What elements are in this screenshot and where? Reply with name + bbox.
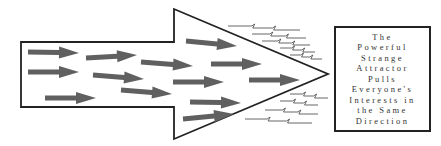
caption-line: Direction xyxy=(356,116,410,127)
caption-line: Attractor xyxy=(356,63,408,74)
caption-line: Everyone's xyxy=(352,84,413,95)
zigzag-line xyxy=(252,32,306,38)
caption-line: Pulls xyxy=(368,74,397,85)
caption-line: The xyxy=(372,32,392,43)
zigzag-line xyxy=(265,108,318,114)
caption-box: ThePowerfulStrangeAttractorPullsEveryone… xyxy=(334,26,431,132)
caption-line: Interests in xyxy=(349,95,415,106)
zigzag-line xyxy=(228,24,300,30)
caption-line: the Same xyxy=(357,105,408,116)
zigzag-line xyxy=(290,53,322,59)
zigzag-line xyxy=(290,92,328,98)
zigzag-line xyxy=(262,39,310,45)
zigzag-line xyxy=(280,46,315,52)
zigzag-line xyxy=(245,117,312,123)
caption-line: Strange xyxy=(361,53,404,64)
caption-line: Powerful xyxy=(357,42,407,53)
zigzag-line xyxy=(280,99,318,105)
